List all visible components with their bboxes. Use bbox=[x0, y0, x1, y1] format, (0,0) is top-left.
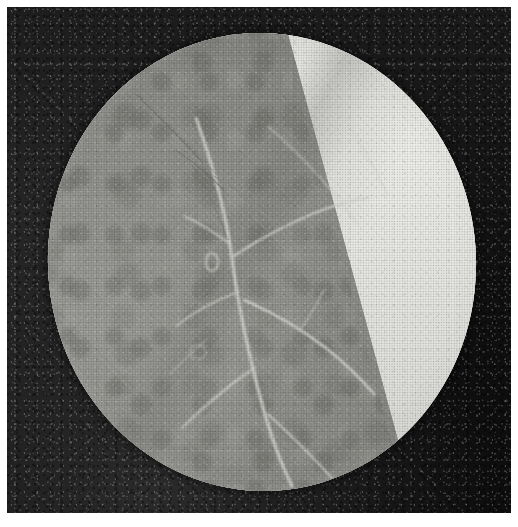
photographic-print bbox=[7, 7, 511, 513]
microscope-field-of-view bbox=[33, 19, 492, 506]
halftone-plate bbox=[0, 0, 518, 527]
